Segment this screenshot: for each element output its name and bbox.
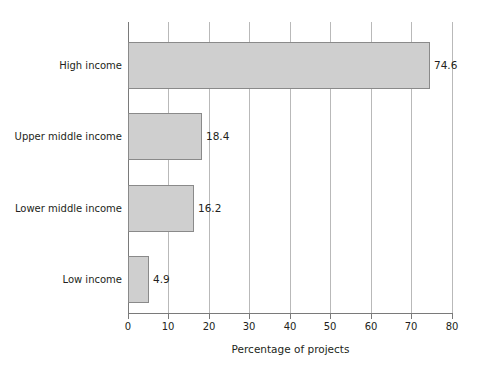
x-tick-label-80: 80 [437,321,467,333]
y-tick-label-high-income: High income [0,60,122,72]
x-tick-label-70: 70 [396,321,426,333]
x-tick-label-50: 50 [315,321,345,333]
x-tick-mark-10 [168,314,169,319]
bar-value-lower-middle-income: 16.2 [198,202,221,214]
bar-high-income[interactable] [128,42,430,89]
x-tick-mark-20 [209,314,210,319]
x-tick-mark-60 [371,314,372,319]
bar-value-low-income: 4.9 [153,273,170,285]
bar-chart: 0 10 20 30 40 50 60 70 80 74.6 18.4 16.2… [0,0,493,373]
y-tick-label-upper-middle-income: Upper middle income [0,131,122,143]
x-tick-label-10: 10 [153,321,183,333]
x-tick-mark-80 [452,314,453,319]
x-axis-title: Percentage of projects [128,343,453,356]
x-tick-label-40: 40 [275,321,305,333]
bar-lower-middle-income[interactable] [128,185,194,232]
bar-upper-middle-income[interactable] [128,113,202,160]
x-tick-mark-30 [249,314,250,319]
x-tick-mark-50 [330,314,331,319]
bar-low-income[interactable] [128,256,149,303]
y-tick-label-lower-middle-income: Lower middle income [0,203,122,215]
x-tick-label-20: 20 [194,321,224,333]
y-tick-label-low-income: Low income [0,274,122,286]
x-tick-mark-40 [290,314,291,319]
x-tick-label-60: 60 [356,321,386,333]
x-tick-mark-70 [411,314,412,319]
x-tick-mark-0 [128,314,129,319]
x-tick-label-0: 0 [113,321,143,333]
bar-value-upper-middle-income: 18.4 [206,130,229,142]
bar-value-high-income: 74.6 [434,59,457,71]
x-tick-label-30: 30 [234,321,264,333]
